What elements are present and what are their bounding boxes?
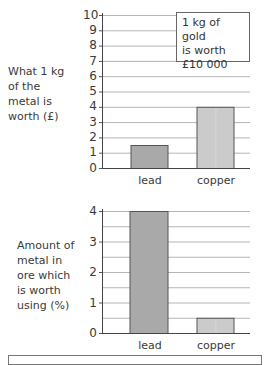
- bar-lead: [130, 212, 168, 334]
- x-label-copper: copper: [190, 174, 242, 187]
- gold-annotation-box: 1 kg of gold is worth £10 000: [176, 12, 250, 62]
- gridlines: [102, 212, 250, 319]
- note-line: is worth: [182, 44, 244, 58]
- bottom-frame-box: [8, 355, 262, 365]
- note-line: 1 kg of gold: [182, 16, 244, 44]
- bar-lead: [131, 146, 168, 169]
- note-line: £10 000: [182, 58, 244, 72]
- x-label-lead: lead: [126, 339, 174, 352]
- x-label-copper: copper: [190, 339, 242, 352]
- x-label-lead: lead: [126, 174, 174, 187]
- bottom-chart-plot: [0, 190, 264, 360]
